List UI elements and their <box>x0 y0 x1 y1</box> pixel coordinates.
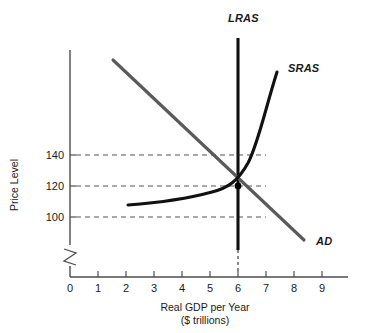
x-tick-label-3: 3 <box>151 282 157 294</box>
x-tick-label-6: 6 <box>235 282 241 294</box>
y-axis-title-label: Price Level <box>8 159 20 211</box>
series-ad <box>113 60 304 240</box>
y-axis-title: Price Level <box>8 159 20 211</box>
axes <box>64 50 348 277</box>
axis-break-icon <box>64 249 76 265</box>
y-axis-ticks <box>70 155 76 217</box>
x-tick-label-4: 4 <box>179 282 185 294</box>
x-axis-tick-labels: 0 1 2 3 4 5 6 7 8 9 <box>67 282 325 294</box>
curve-labels: LRAS SRAS AD <box>228 12 332 247</box>
x-tick-label-9: 9 <box>319 282 325 294</box>
sras-curve <box>128 72 277 205</box>
ad-label: AD <box>315 235 332 247</box>
y-tick-label-100: 100 <box>46 211 64 223</box>
x-tick-label-2: 2 <box>123 282 129 294</box>
x-axis-title: Real GDP per Year ($ trillions) <box>160 301 250 326</box>
series-sras <box>128 72 277 205</box>
x-axis-title-units: ($ trillions) <box>181 314 229 326</box>
y-axis-tick-labels: 140 120 100 <box>46 149 64 223</box>
equilibrium-point <box>235 183 242 190</box>
x-tick-label-1: 1 <box>95 282 101 294</box>
chart-canvas: Price Level 0 1 <box>0 0 375 333</box>
x-axis-title-label: Real GDP per Year <box>160 301 250 313</box>
lras-label: LRAS <box>228 12 259 24</box>
x-tick-label-7: 7 <box>263 282 269 294</box>
x-tick-label-0: 0 <box>67 282 73 294</box>
sras-label: SRAS <box>288 62 320 74</box>
x-tick-label-5: 5 <box>207 282 213 294</box>
x-axis-ticks <box>98 271 322 277</box>
y-tick-label-140: 140 <box>46 149 64 161</box>
ad-line <box>113 60 304 240</box>
ad-as-chart: Price Level 0 1 <box>0 0 375 333</box>
y-tick-label-120: 120 <box>46 180 64 192</box>
x-tick-label-8: 8 <box>291 282 297 294</box>
